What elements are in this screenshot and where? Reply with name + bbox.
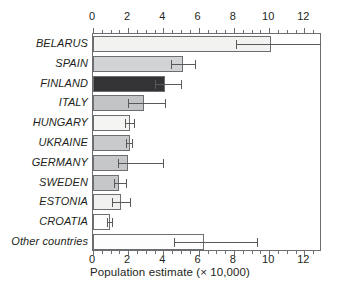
error-bar-cap <box>114 179 115 188</box>
x-tick-label-top: 8 <box>230 10 236 22</box>
axis-tick <box>313 250 314 254</box>
axis-tick <box>252 250 253 254</box>
x-tick-label-bottom: 10 <box>262 253 274 265</box>
axis-tick <box>287 250 288 254</box>
axis-tick <box>181 30 182 34</box>
error-bar-cap <box>257 238 258 247</box>
error-bar-belarus <box>236 44 321 45</box>
error-bar-cap <box>112 218 113 227</box>
x-tick-label-bottom: 0 <box>89 253 95 265</box>
x-tick-label-bottom: 6 <box>195 253 201 265</box>
error-bar-hungary <box>125 123 134 124</box>
x-tick-label-bottom: 8 <box>230 253 236 265</box>
axis-tick <box>128 28 129 34</box>
category-label-italy: ITALY <box>59 96 88 108</box>
x-axis-title-text: Population estimate (× 10,000) <box>90 266 250 278</box>
error-bar-cap <box>195 60 196 69</box>
error-bar-cap <box>126 139 127 148</box>
error-bar-cap <box>112 198 113 207</box>
axis-tick <box>296 250 297 254</box>
axis-tick <box>190 250 191 254</box>
axis-tick <box>155 30 156 34</box>
error-bar-other-countries <box>174 242 257 243</box>
error-bar-spain <box>171 64 196 65</box>
error-bar-cap <box>155 80 156 89</box>
error-bar-cap <box>118 159 119 168</box>
axis-tick <box>146 30 147 34</box>
error-bar-estonia <box>112 202 130 203</box>
axis-tick <box>181 250 182 254</box>
error-bar-cap <box>125 119 126 128</box>
axis-tick <box>269 250 270 256</box>
axis-tick <box>260 30 261 34</box>
category-label-croatia: CROATIA <box>39 215 88 227</box>
x-tick-label-top: 12 <box>297 10 309 22</box>
axis-tick <box>260 250 261 254</box>
axis-tick <box>163 28 164 34</box>
axis-tick <box>243 250 244 254</box>
axis-tick <box>225 250 226 254</box>
axis-tick <box>137 250 138 254</box>
axis-tick <box>252 30 253 34</box>
axis-tick <box>313 30 314 34</box>
error-bar-cap <box>130 198 131 207</box>
axis-tick <box>172 30 173 34</box>
population-estimate-bar-chart: 024681012 024681012 BELARUSSPAINFINLANDI… <box>0 0 340 288</box>
error-bar-italy <box>128 103 165 104</box>
x-tick-label-top: 10 <box>262 10 274 22</box>
x-tick-label-top: 2 <box>124 10 130 22</box>
axis-tick <box>172 250 173 254</box>
error-bar-cap <box>236 40 237 49</box>
axis-tick <box>287 30 288 34</box>
category-label-hungary: HUNGARY <box>33 116 88 128</box>
category-label-spain: SPAIN <box>55 57 88 69</box>
x-tick-label-top: 0 <box>89 10 95 22</box>
x-axis-title: Population estimate (× 10,000) <box>0 266 340 278</box>
category-label-ukraine: UKRAINE <box>38 136 88 148</box>
axis-tick <box>199 28 200 34</box>
axis-tick <box>146 250 147 254</box>
error-bar-cap <box>132 139 133 148</box>
axis-tick <box>208 250 209 254</box>
axis-tick <box>155 250 156 254</box>
category-label-finland: FINLAND <box>40 77 88 89</box>
axis-tick <box>208 30 209 34</box>
category-label-estonia: ESTONIA <box>39 195 88 207</box>
axis-tick <box>216 30 217 34</box>
axis-tick <box>102 30 103 34</box>
error-bar-cap <box>165 99 166 108</box>
axis-tick <box>278 30 279 34</box>
axis-tick <box>137 30 138 34</box>
category-label-germany: GERMANY <box>32 156 88 168</box>
axis-tick <box>199 250 200 256</box>
axis-tick <box>234 250 235 256</box>
x-tick-label-bottom: 4 <box>159 253 165 265</box>
axis-tick <box>269 28 270 34</box>
error-bar-cap <box>163 159 164 168</box>
axis-tick <box>216 250 217 254</box>
axis-tick <box>111 30 112 34</box>
category-label-belarus: BELARUS <box>36 37 88 49</box>
error-bar-cap <box>107 218 108 227</box>
axis-tick <box>119 30 120 34</box>
axis-tick <box>304 28 305 34</box>
category-label-other-countries: Other countries <box>11 235 88 247</box>
bar-ukraine <box>93 135 130 151</box>
error-bar-cap <box>128 99 129 108</box>
axis-tick <box>119 250 120 254</box>
axis-tick <box>93 250 94 256</box>
plot-area <box>92 33 321 251</box>
axis-tick <box>296 30 297 34</box>
x-tick-label-bottom: 12 <box>297 253 309 265</box>
error-bar-cap <box>126 179 127 188</box>
error-bar-cap <box>181 80 182 89</box>
error-bar-cap <box>134 119 135 128</box>
axis-tick <box>304 250 305 256</box>
axis-tick <box>128 250 129 256</box>
axis-tick <box>225 30 226 34</box>
x-tick-label-bottom: 2 <box>124 253 130 265</box>
axis-tick <box>111 250 112 254</box>
axis-tick <box>163 250 164 256</box>
axis-tick <box>102 250 103 254</box>
bar-spain <box>93 56 183 72</box>
